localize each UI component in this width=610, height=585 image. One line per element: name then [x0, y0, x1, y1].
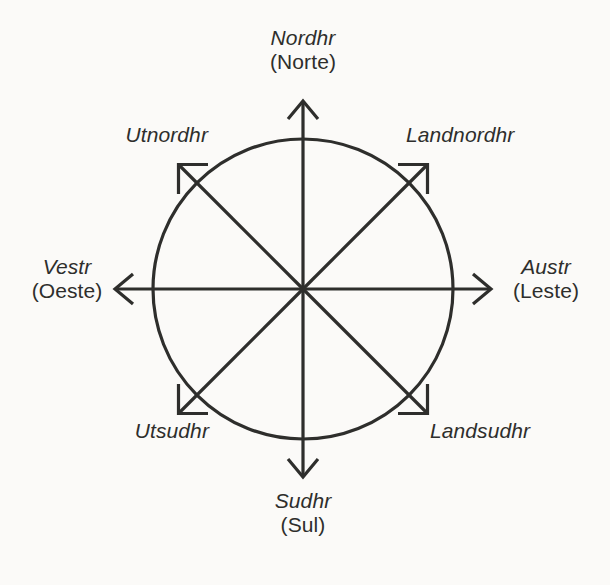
- direction-label-northwest: Utnordhr: [48, 123, 208, 147]
- direction-label-south: Sudhr (Sul): [213, 489, 393, 538]
- northeast-axis-line: [303, 165, 428, 290]
- southwest-axis-line: [179, 289, 304, 414]
- direction-label-southeast-native: Landsudhr: [430, 419, 610, 443]
- direction-label-northwest-native: Utnordhr: [48, 123, 208, 147]
- direction-label-east-gloss: (Leste): [487, 279, 605, 303]
- direction-label-north-gloss: (Norte): [213, 50, 393, 74]
- direction-label-southeast: Landsudhr: [430, 419, 610, 443]
- direction-label-south-gloss: (Sul): [213, 513, 393, 537]
- direction-label-west-native: Vestr: [8, 255, 126, 279]
- direction-label-west: Vestr (Oeste): [8, 255, 126, 304]
- direction-label-east-native: Austr: [487, 255, 605, 279]
- direction-label-southwest: Utsudhr: [44, 419, 209, 443]
- direction-label-south-native: Sudhr: [213, 489, 393, 513]
- direction-label-west-gloss: (Oeste): [8, 279, 126, 303]
- direction-label-north: Nordhr (Norte): [213, 26, 393, 75]
- direction-label-northeast-native: Landnordhr: [406, 123, 596, 147]
- compass-rose-figure: Nordhr (Norte) Landnordhr Austr (Leste) …: [0, 0, 610, 585]
- northwest-axis-line: [179, 165, 304, 290]
- direction-label-southwest-native: Utsudhr: [44, 419, 209, 443]
- southeast-axis-line: [303, 289, 428, 414]
- direction-label-east: Austr (Leste): [487, 255, 605, 304]
- direction-label-northeast: Landnordhr: [406, 123, 596, 147]
- direction-label-north-native: Nordhr: [213, 26, 393, 50]
